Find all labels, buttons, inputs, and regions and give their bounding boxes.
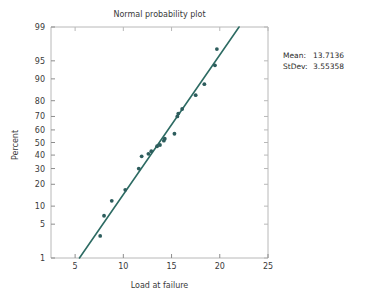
x-tick-label: 10 [118, 262, 128, 271]
stdev-label: StDev: [283, 61, 313, 72]
x-tick-label: 20 [215, 262, 225, 271]
y-tick-label: 99 [35, 23, 45, 32]
y-tick-label: 20 [35, 180, 45, 189]
data-point [173, 132, 177, 136]
x-tick-label: 25 [263, 262, 273, 271]
stdev-value: 3.55358 [313, 61, 344, 72]
y-tick-label: 5 [40, 220, 45, 229]
chart-title: Normal probability plot [113, 10, 205, 19]
y-tick-label: 80 [35, 97, 45, 106]
x-tick-label: 15 [166, 262, 176, 271]
data-point [215, 47, 219, 51]
data-point [180, 107, 184, 111]
y-tick-label: 1 [40, 254, 45, 263]
data-point [110, 199, 114, 203]
x-tick-label: 5 [73, 262, 78, 271]
y-tick-label: 90 [35, 75, 45, 84]
y-tick-label: 50 [35, 139, 45, 148]
mean-label: Mean: [283, 50, 313, 61]
mean-row: Mean: 13.7136 [283, 50, 344, 61]
data-point [98, 234, 102, 238]
y-tick-label: 70 [35, 112, 45, 121]
statistics-summary: Mean: 13.7136 StDev: 3.55358 [283, 50, 344, 72]
stdev-row: StDev: 3.55358 [283, 61, 344, 72]
data-point [163, 137, 167, 141]
data-point [202, 82, 206, 86]
x-axis-label: Load at failure [131, 281, 189, 290]
data-point [213, 63, 217, 67]
data-point [137, 167, 141, 171]
mean-value: 13.7136 [313, 50, 344, 61]
data-point [158, 143, 162, 147]
data-point [123, 188, 127, 192]
y-tick-label: 30 [35, 165, 45, 174]
data-point [102, 214, 106, 218]
y-tick-label: 40 [35, 151, 45, 160]
data-point [140, 154, 144, 158]
normal-probability-plot: Normal probability plot Percent Load at … [0, 0, 371, 303]
data-point [176, 112, 180, 116]
y-tick-label: 95 [35, 57, 45, 66]
data-point [149, 149, 153, 153]
y-tick-label: 10 [35, 202, 45, 211]
y-tick-label: 60 [35, 126, 45, 135]
data-point [194, 93, 198, 97]
y-axis-label: Percent [11, 130, 20, 160]
data-point [147, 152, 151, 156]
